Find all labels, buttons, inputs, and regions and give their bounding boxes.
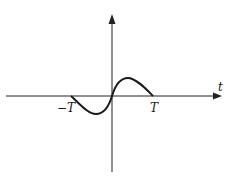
vertical-axis-arrow-icon bbox=[109, 14, 116, 24]
tick-label-T: T bbox=[150, 101, 159, 115]
function-diagram: t −T T bbox=[0, 0, 235, 180]
tick-label-neg-T: −T bbox=[57, 101, 76, 115]
t-axis-label: t bbox=[218, 80, 223, 94]
